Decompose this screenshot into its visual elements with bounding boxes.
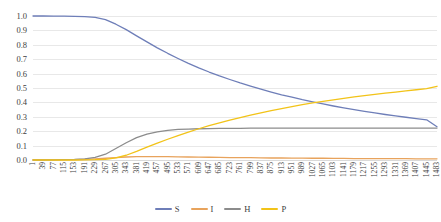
x-axis-tick-label: 571 xyxy=(184,162,192,173)
x-axis-tick-label: 229 xyxy=(91,162,99,173)
series-line-S xyxy=(33,16,437,127)
plot-area xyxy=(33,16,437,160)
x-axis-tick-label: 1483 xyxy=(433,162,441,177)
x-axis-tick-label: 77 xyxy=(50,162,58,170)
x-axis-tick-label: 153 xyxy=(70,162,78,173)
y-axis-tick-label: 0.4 xyxy=(16,98,27,107)
y-axis-tick-label: 0.2 xyxy=(16,127,27,136)
x-axis-tick-label: 951 xyxy=(288,162,296,173)
y-axis-tick-label: 1.0 xyxy=(16,12,27,21)
x-axis-tick-label: 495 xyxy=(164,162,172,173)
legend-swatch-icon xyxy=(261,208,278,210)
y-axis-tick-label: 0.1 xyxy=(16,142,27,151)
legend-swatch-icon xyxy=(191,208,208,210)
series-line-H xyxy=(33,128,437,160)
x-axis-tick-label: 1445 xyxy=(423,162,431,177)
x-axis-tick-label: 647 xyxy=(205,162,213,173)
y-axis-tick-label: 0.6 xyxy=(16,70,27,79)
x-axis-tick-label: 457 xyxy=(153,162,161,173)
y-axis-tick-label: 0.7 xyxy=(16,55,27,64)
legend-item-S[interactable]: S xyxy=(155,205,180,214)
x-axis-tick-label: 115 xyxy=(60,162,68,173)
x-axis-tick-label: 609 xyxy=(195,162,203,173)
x-axis-tick-label: 533 xyxy=(174,162,182,173)
x-axis: 1397711515319122926730534338141945749553… xyxy=(33,162,437,202)
line-chart: 1.00.90.80.70.60.50.40.30.20.10.0 139771… xyxy=(0,0,441,222)
x-axis-tick-label: 381 xyxy=(133,162,141,173)
y-axis-tick-label: 0.3 xyxy=(16,113,27,122)
y-axis-tick-label: 0.0 xyxy=(16,156,27,165)
legend-swatch-icon xyxy=(155,208,172,210)
legend-item-H[interactable]: H xyxy=(224,205,250,214)
x-axis-tick-label: 761 xyxy=(236,162,244,173)
legend-label: I xyxy=(211,205,214,214)
y-axis: 1.00.90.80.70.60.50.40.30.20.10.0 xyxy=(0,16,31,160)
x-axis-tick-label: 305 xyxy=(112,162,120,173)
x-axis-tick-label: 1407 xyxy=(412,162,420,177)
x-axis-tick-label: 1255 xyxy=(371,162,379,177)
x-axis-tick-label: 1217 xyxy=(360,162,368,177)
x-axis-tick-label: 1293 xyxy=(381,162,389,177)
legend-label: H xyxy=(244,205,250,214)
x-axis-tick-label: 723 xyxy=(226,162,234,173)
x-axis-tick-label: 837 xyxy=(257,162,265,173)
x-axis-tick-label: 1179 xyxy=(350,162,358,177)
x-axis-tick-label: 1065 xyxy=(319,162,327,177)
x-axis-tick-label: 799 xyxy=(247,162,255,173)
x-axis-tick-label: 875 xyxy=(267,162,275,173)
series-line-P xyxy=(33,86,437,160)
x-axis-tick-label: 1027 xyxy=(309,162,317,177)
x-axis-tick-label: 1103 xyxy=(329,162,337,177)
x-axis-tick-label: 685 xyxy=(215,162,223,173)
series-layer xyxy=(33,16,437,160)
x-axis-tick-label: 913 xyxy=(278,162,286,173)
x-axis-tick-label: 1 xyxy=(29,162,37,166)
y-axis-tick-label: 0.5 xyxy=(16,84,27,93)
y-axis-tick-label: 0.9 xyxy=(16,26,27,35)
legend-swatch-icon xyxy=(224,208,241,210)
legend-label: P xyxy=(281,205,286,214)
x-axis-tick-label: 989 xyxy=(298,162,306,173)
x-axis-tick-label: 1331 xyxy=(392,162,400,177)
chart-legend: SIHP xyxy=(0,201,441,217)
x-axis-tick-label: 1369 xyxy=(402,162,410,177)
x-axis-tick-label: 1141 xyxy=(340,162,348,177)
x-axis-tick-label: 267 xyxy=(102,162,110,173)
x-axis-tick-label: 191 xyxy=(81,162,89,173)
legend-label: S xyxy=(175,205,180,214)
legend-item-P[interactable]: P xyxy=(261,205,286,214)
y-axis-tick-label: 0.8 xyxy=(16,41,27,50)
x-axis-tick-label: 419 xyxy=(143,162,151,173)
legend-item-I[interactable]: I xyxy=(191,205,214,214)
x-axis-tick-label: 39 xyxy=(39,162,47,170)
x-axis-tick-label: 343 xyxy=(122,162,130,173)
